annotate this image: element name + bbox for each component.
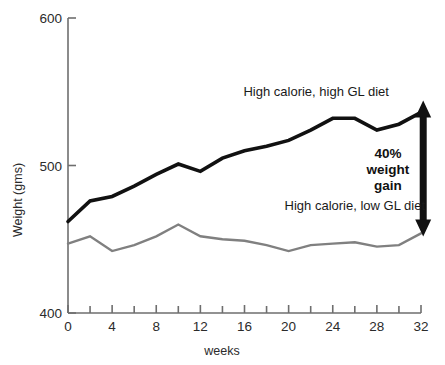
annot-line: gain [374,178,402,193]
x-tick-label: 8 [152,319,160,334]
y-tick-label: 500 [39,159,62,174]
y-axis-tick-labels: 400500600 [39,11,62,321]
y-axis-title: Weight (gms) [11,163,25,237]
weight-gain-arrow [415,101,431,237]
annot-line: weight [366,162,410,177]
data-series-group [68,112,421,251]
weight-over-weeks-line-chart: 400500600 Weight (gms) 048121620242832 w… [0,0,445,365]
x-tick-label: 32 [413,319,428,334]
x-tick-label: 20 [281,319,296,334]
x-axis-tick-labels: 048121620242832 [64,319,428,334]
x-tick-label: 24 [325,319,341,334]
y-tick-label: 600 [39,11,62,26]
annot-line: 40% [374,146,401,161]
arrow-head-top [415,101,431,118]
y-axis-ticks [68,18,76,313]
x-axis-ticks [68,305,421,313]
x-tick-label: 12 [193,319,208,334]
y-tick-label: 400 [39,306,62,321]
x-tick-label: 0 [64,319,72,334]
low-gl-series-label: High calorie, low GL diet [285,198,426,213]
x-tick-label: 28 [369,319,384,334]
chart-container: 400500600 Weight (gms) 048121620242832 w… [0,0,445,365]
series-line-low-gl [68,225,421,252]
x-tick-label: 16 [237,319,252,334]
weight-gain-arrow-label: 40%weightgain [366,146,410,193]
chart-annotations: High calorie, high GL dietHigh calorie, … [243,84,425,213]
high-gl-series-label: High calorie, high GL diet [243,84,389,99]
y-axis: 400500600 Weight (gms) [11,11,76,321]
x-tick-label: 4 [108,319,116,334]
x-axis-title: weeks [203,344,239,358]
x-axis: 048121620242832 weeks [64,305,428,358]
